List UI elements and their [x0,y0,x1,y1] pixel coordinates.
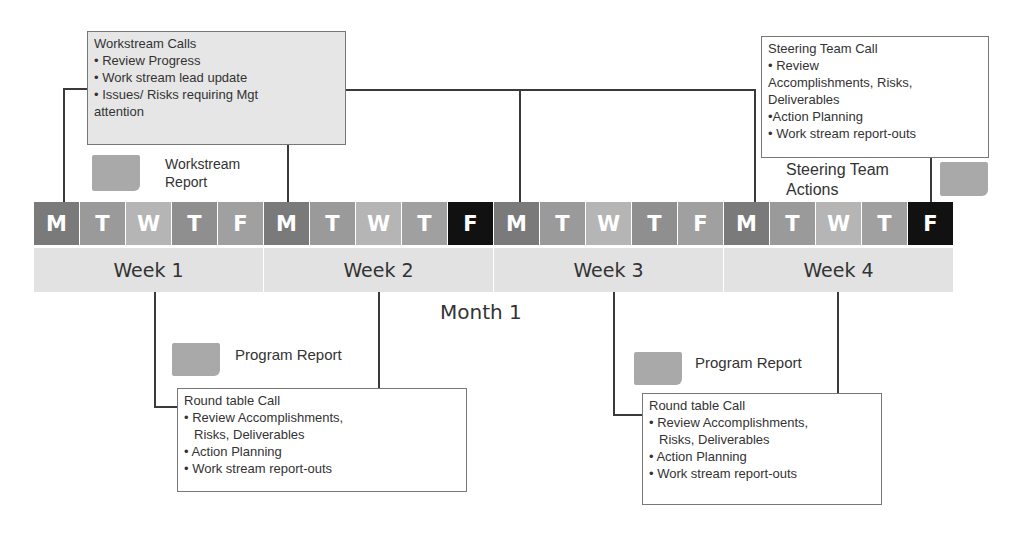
day-cell: F [448,202,493,245]
day-cell: T [862,202,907,245]
month-label: Month 1 [440,300,522,324]
workstream-report-line2: Report [165,173,240,191]
workstream-calls-item: • Work stream lead update [94,69,339,86]
steering-call-item: • Work stream report-outs [768,125,982,142]
workstream-calls-item: • Issues/ Risks requiring Mgt [94,86,339,103]
day-cell: T [172,202,217,245]
connector-line [154,406,178,408]
connector-line [378,292,380,388]
steering-team-actions-label: Steering Team Actions [786,160,889,200]
round-table-call-box-2: Round table Call • Review Accomplishment… [642,393,882,505]
round-table-call-box-1: Round table Call • Review Accomplishment… [177,388,467,492]
connector-line [519,90,521,202]
day-cell: W [586,202,631,245]
connector-line [930,157,932,202]
week-3-cell: Week 3 [494,248,723,292]
day-cell: F [678,202,723,245]
day-cell: T [632,202,677,245]
week-2-cell: Week 2 [264,248,493,292]
day-cell: T [770,202,815,245]
steering-call-title: Steering Team Call [768,40,982,57]
round-table-item: • Work stream report-outs [649,465,875,482]
document-icon [634,352,682,385]
day-row: MTWTFMTWTFMTWTFMTWTF [34,202,954,245]
steering-call-item: • Review [768,57,982,74]
day-cell: F [218,202,263,245]
steering-call-item: •Action Planning [768,108,982,125]
day-cell: T [80,202,125,245]
week-1-cell: Week 1 [34,248,263,292]
connector-line [754,90,756,202]
document-icon [172,343,220,376]
round-table-title: Round table Call [649,397,875,414]
connector-line [344,89,756,91]
steering-call-item: Deliverables [768,91,982,108]
day-cell: T [402,202,447,245]
document-icon [92,155,140,191]
steering-actions-line2: Actions [786,180,889,200]
round-table-item: • Review Accomplishments, [184,409,460,426]
workstream-calls-box: Workstream Calls • Review Progress • Wor… [87,31,346,145]
day-cell: M [724,202,769,245]
connector-line [613,414,643,416]
round-table-item: Risks, Deliverables [184,426,460,443]
connector-line [63,88,87,90]
workstream-calls-item: attention [94,103,339,120]
day-cell: M [34,202,79,245]
round-table-item: Risks, Deliverables [649,431,875,448]
workstream-report-line1: Workstream [165,155,240,173]
day-cell: F [908,202,953,245]
day-cell: W [126,202,171,245]
program-report-2-label: Program Report [695,354,802,372]
round-table-item: • Action Planning [184,443,460,460]
day-cell: W [816,202,861,245]
connector-line [287,144,289,202]
steering-team-call-box: Steering Team Call • Review Accomplishme… [761,36,989,158]
day-cell: W [356,202,401,245]
program-report-1-label: Program Report [235,346,342,364]
connector-line [154,292,156,408]
connector-line [837,292,839,393]
day-cell: M [264,202,309,245]
round-table-title: Round table Call [184,392,460,409]
connector-line [613,292,615,416]
steering-actions-line1: Steering Team [786,160,889,180]
day-cell: T [540,202,585,245]
round-table-item: • Action Planning [649,448,875,465]
steering-call-item: Accomplishments, Risks, [768,74,982,91]
workstream-calls-title: Workstream Calls [94,35,339,52]
week-4-cell: Week 4 [724,248,953,292]
day-cell: M [494,202,539,245]
day-cell: T [310,202,355,245]
round-table-item: • Work stream report-outs [184,460,460,477]
connector-line [63,88,65,202]
document-icon [940,162,988,196]
week-row: Week 1 Week 2 Week 3 Week 4 [34,248,954,292]
round-table-item: • Review Accomplishments, [649,414,875,431]
workstream-report-label: Workstream Report [165,155,240,191]
workstream-calls-item: • Review Progress [94,52,339,69]
